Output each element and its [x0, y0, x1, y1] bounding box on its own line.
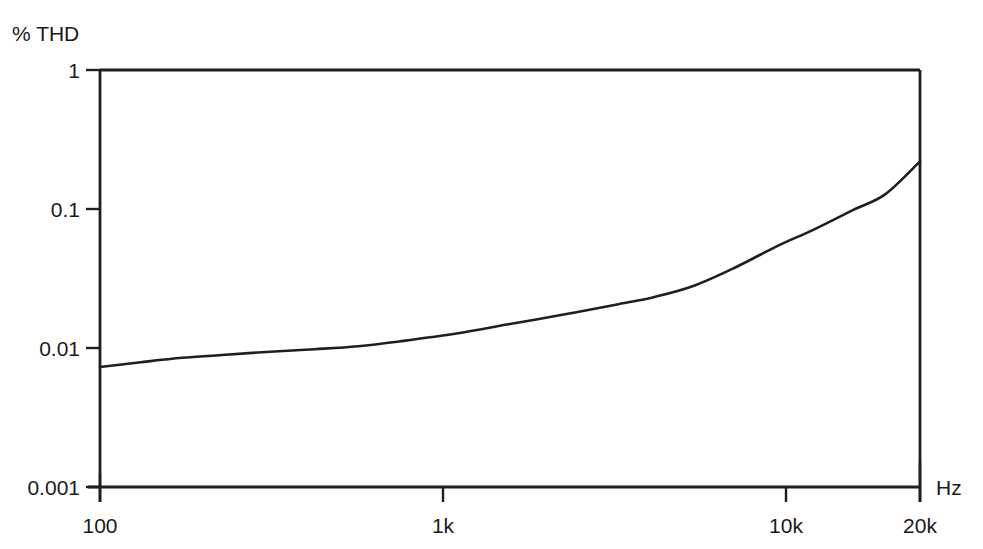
x-axis-ticks — [100, 460, 920, 502]
y-tick-label-0.1: 0.1 — [51, 198, 80, 221]
x-tick-label-10k: 10k — [769, 514, 803, 537]
x-tick-label-1k: 1k — [432, 514, 455, 537]
thd-frequency-chart: 1 0.1 0.01 0.001 100 1k 10k 20k % THD Hz — [0, 0, 983, 549]
x-axis-title: Hz — [936, 476, 962, 499]
x-tick-label-20k: 20k — [903, 514, 937, 537]
y-axis-ticks — [86, 70, 100, 487]
x-axis-tick-labels: 100 1k 10k 20k — [82, 514, 937, 537]
y-axis-tick-labels: 1 0.1 0.01 0.001 — [27, 59, 80, 499]
chart-canvas: 1 0.1 0.01 0.001 100 1k 10k 20k % THD Hz — [0, 0, 983, 549]
y-tick-label-0.001: 0.001 — [27, 476, 80, 499]
y-tick-label-0.01: 0.01 — [39, 337, 80, 360]
thd-data-curve — [100, 161, 920, 367]
y-axis-title: % THD — [12, 22, 79, 45]
x-tick-label-100: 100 — [82, 514, 117, 537]
y-tick-label-1: 1 — [68, 59, 80, 82]
plot-frame — [88, 70, 920, 502]
